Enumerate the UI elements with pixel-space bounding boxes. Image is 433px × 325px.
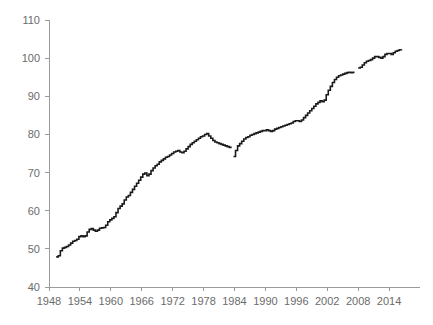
- y-tick-label: 40: [28, 281, 40, 293]
- y-axis-ticks: 405060708090100110: [22, 14, 49, 293]
- y-tick-label: 110: [22, 14, 40, 26]
- x-tick-label: 1996: [284, 295, 308, 307]
- series-line: [233, 72, 354, 156]
- x-tick-label: 2008: [346, 295, 370, 307]
- x-tick-label: 1972: [160, 295, 184, 307]
- series-line: [358, 49, 401, 68]
- x-tick-label: 1966: [130, 295, 154, 307]
- x-axis-ticks: 1948195419601966197219781984199019962002…: [37, 287, 402, 307]
- chart-container: 405060708090100110 194819541960196619721…: [0, 0, 433, 325]
- series-line: [56, 134, 231, 257]
- data-series: [56, 49, 401, 257]
- x-tick-label: 1990: [253, 295, 277, 307]
- y-tick-label: 90: [28, 90, 40, 102]
- x-tick-label: 1948: [37, 295, 61, 307]
- x-tick-label: 2002: [315, 295, 339, 307]
- x-tick-label: 1978: [191, 295, 215, 307]
- x-tick-label: 2014: [377, 295, 401, 307]
- x-tick-label: 1960: [99, 295, 123, 307]
- y-tick-label: 80: [28, 128, 40, 140]
- y-tick-label: 100: [22, 52, 40, 64]
- y-tick-label: 50: [28, 243, 40, 255]
- y-tick-label: 70: [28, 167, 40, 179]
- x-tick-label: 1954: [68, 295, 92, 307]
- x-tick-label: 1984: [222, 295, 246, 307]
- y-tick-label: 60: [28, 205, 40, 217]
- line-chart: 405060708090100110 194819541960196619721…: [0, 0, 433, 325]
